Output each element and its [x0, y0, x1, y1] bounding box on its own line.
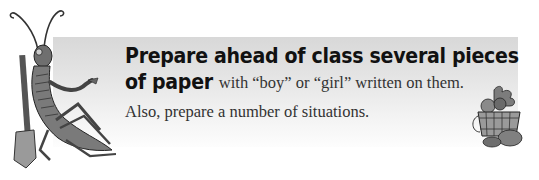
grasshopper-illustration — [0, 0, 130, 175]
instruction-text: Prepare ahead of class several pieces of… — [125, 46, 505, 121]
instruction-body-line3: Also, prepare a number of situations. — [125, 102, 369, 121]
instruction-heading-line2: of paper — [125, 71, 213, 92]
instruction-heading-line1: Prepare ahead of class several pieces — [125, 45, 519, 66]
instruction-body-line2: with “boy” or “girl” written on them. — [219, 75, 464, 92]
